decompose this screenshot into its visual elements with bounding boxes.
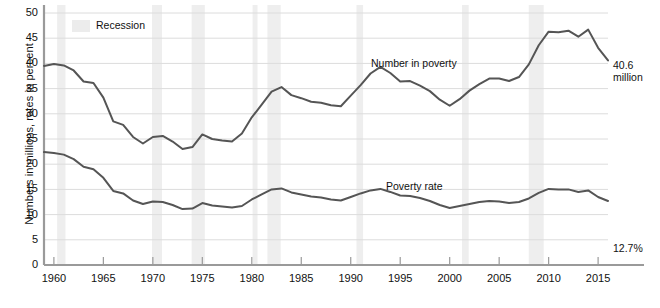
x-tick-label: 2000 <box>430 272 470 284</box>
x-tick-label: 1995 <box>380 272 420 284</box>
number-in-poverty-label: Number in poverty <box>371 57 457 69</box>
y-tick-label: 45 <box>12 31 38 43</box>
x-ticks-group <box>54 257 598 265</box>
x-tick-label: 1965 <box>83 272 123 284</box>
gridlines-group <box>44 13 608 265</box>
recession-band <box>529 5 544 265</box>
y-tick-label: 25 <box>12 132 38 144</box>
end-rate-value: 12.7% <box>613 243 643 255</box>
x-tick-label: 1975 <box>182 272 222 284</box>
series-line <box>44 152 608 209</box>
y-tick-label: 35 <box>12 82 38 94</box>
end-number-value: 40.6 <box>613 60 633 72</box>
series-lines-group <box>44 30 608 209</box>
y-tick-label: 40 <box>12 56 38 68</box>
recession-band <box>356 5 363 265</box>
poverty-rate-label: Poverty rate <box>386 180 443 192</box>
y-tick-label: 5 <box>12 233 38 245</box>
recession-band <box>267 5 280 265</box>
recession-band <box>152 5 162 265</box>
poverty-chart-svg <box>0 0 660 308</box>
end-number-unit: million <box>613 72 643 84</box>
axes-group <box>44 5 644 265</box>
y-tick-label: 30 <box>12 107 38 119</box>
chart-root: Numbers in millions, rates in percent 05… <box>0 0 660 308</box>
x-tick-label: 1980 <box>232 272 272 284</box>
recession-legend-swatch <box>72 20 90 32</box>
x-tick-label: 2015 <box>578 272 618 284</box>
y-tick-label: 0 <box>12 258 38 270</box>
x-tick-label: 1990 <box>331 272 371 284</box>
recession-band <box>57 5 65 265</box>
series-line <box>44 30 608 149</box>
recession-legend-label: Recession <box>96 19 145 31</box>
x-tick-label: 1985 <box>281 272 321 284</box>
y-tick-label: 20 <box>12 157 38 169</box>
y-tick-label: 50 <box>12 6 38 18</box>
x-tick-label: 1960 <box>34 272 74 284</box>
y-tick-label: 15 <box>12 182 38 194</box>
recession-band <box>462 5 469 265</box>
x-tick-label: 2005 <box>479 272 519 284</box>
x-tick-label: 2010 <box>529 272 569 284</box>
y-tick-label: 10 <box>12 208 38 220</box>
x-tick-label: 1970 <box>133 272 173 284</box>
recession-band <box>253 5 258 265</box>
